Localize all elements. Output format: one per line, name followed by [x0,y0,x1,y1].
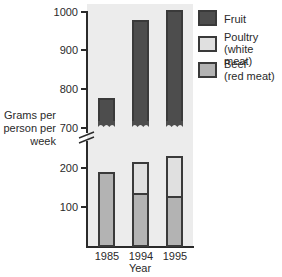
torn-edge-1995 [166,121,183,129]
legend-label-beef: Beef (red meat) [224,58,275,82]
x-axis-title: Year [120,262,160,274]
legend-swatch-fruit [198,10,217,26]
torn-edge-1985 [98,121,115,129]
axis-break-icon [78,129,96,145]
tick-label-100: 100 [38,201,78,213]
tick-700 [81,127,88,129]
y-axis-lower [86,141,88,248]
y-axis-title-line2: person per [0,122,56,135]
bar-poultry-1994 [132,162,149,195]
tick-900 [81,49,88,51]
bar-fruit-1994 [132,20,149,124]
bar-beef-1994 [132,193,149,247]
torn-edge-1994 [132,121,149,129]
bar-beef-1995 [166,196,183,247]
y-axis-title: Grams per person per week [0,109,56,148]
legend-label-beef-line1: Beef [224,58,275,70]
tick-label-1000: 1000 [38,6,78,18]
tick-1000 [81,11,88,13]
bar-fruit-1995 [166,10,183,124]
y-axis-title-line3: week [0,135,56,148]
tick-800 [81,88,88,90]
tick-label-200: 200 [38,162,78,174]
y-axis-title-line1: Grams per [0,109,56,122]
legend-label-poultry-line1: Poultry [224,31,282,43]
bar-poultry-1995 [166,156,183,198]
tick-label-800: 800 [38,83,78,95]
legend-label-fruit: Fruit [224,13,246,25]
bar-beef-1985 [98,172,115,247]
tick-100 [81,206,88,208]
legend-swatch-poultry [198,36,217,52]
y-axis-upper [86,11,88,133]
legend-label-beef-line2: (red meat) [224,70,275,82]
tick-label-900: 900 [38,44,78,56]
x-tick-1995: 1995 [155,250,195,262]
tick-200 [81,167,88,169]
legend-swatch-beef [198,62,217,78]
